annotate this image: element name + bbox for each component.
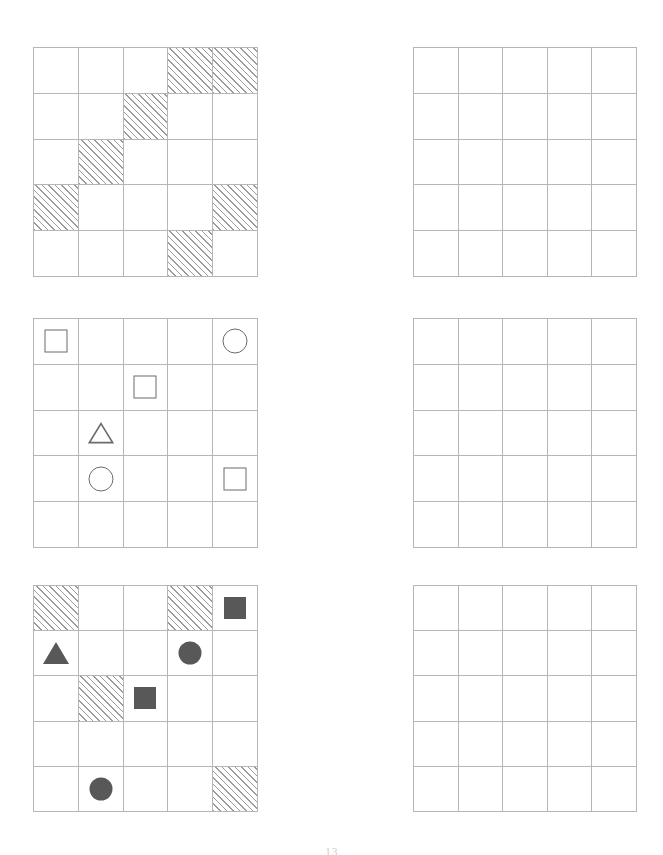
grid-cell[interactable] — [548, 502, 593, 548]
grid-cell[interactable] — [414, 48, 459, 94]
grid-cell[interactable] — [124, 767, 169, 812]
grid-cell[interactable] — [213, 185, 258, 231]
grid-cell[interactable] — [459, 319, 504, 365]
grid-cell[interactable] — [503, 140, 548, 186]
grid-cell[interactable] — [592, 767, 637, 812]
grid-cell[interactable] — [503, 411, 548, 457]
grid-cell[interactable] — [124, 231, 169, 277]
grid-cell[interactable] — [79, 722, 124, 767]
grid-cell[interactable] — [213, 676, 258, 721]
grid-cell[interactable] — [79, 456, 124, 502]
grid-cell[interactable] — [79, 231, 124, 277]
grid-cell[interactable] — [124, 456, 169, 502]
grid-cell[interactable] — [592, 140, 637, 186]
grid-cell[interactable] — [548, 231, 593, 277]
grid-cell[interactable] — [503, 631, 548, 676]
grid-cell[interactable] — [414, 586, 459, 631]
grid-cell[interactable] — [548, 456, 593, 502]
grid-cell[interactable] — [124, 365, 169, 411]
grid-cell[interactable] — [503, 365, 548, 411]
grid-cell[interactable] — [592, 502, 637, 548]
grid-cell[interactable] — [592, 411, 637, 457]
grid-cell[interactable] — [503, 722, 548, 767]
grid-cell[interactable] — [34, 767, 79, 812]
grid-cell[interactable] — [213, 94, 258, 140]
grid-cell[interactable] — [592, 231, 637, 277]
grid-cell[interactable] — [79, 502, 124, 548]
grid-cell[interactable] — [548, 94, 593, 140]
grid-cell[interactable] — [548, 767, 593, 812]
grid-cell[interactable] — [34, 94, 79, 140]
grid-cell[interactable] — [503, 767, 548, 812]
grid-cell[interactable] — [592, 48, 637, 94]
grid-cell[interactable] — [592, 586, 637, 631]
grid-cell[interactable] — [34, 676, 79, 721]
grid-cell[interactable] — [34, 631, 79, 676]
grid-cell[interactable] — [213, 586, 258, 631]
grid-cell[interactable] — [213, 365, 258, 411]
grid-cell[interactable] — [79, 319, 124, 365]
grid-cell[interactable] — [592, 676, 637, 721]
grid-cell[interactable] — [592, 722, 637, 767]
grid-cell[interactable] — [414, 140, 459, 186]
grid-cell[interactable] — [34, 502, 79, 548]
grid-cell[interactable] — [459, 586, 504, 631]
grid-cell[interactable] — [459, 185, 504, 231]
grid-cell[interactable] — [414, 411, 459, 457]
grid-cell[interactable] — [124, 319, 169, 365]
grid-cell[interactable] — [213, 767, 258, 812]
grid-cell[interactable] — [213, 319, 258, 365]
grid-cell[interactable] — [79, 185, 124, 231]
grid-cell[interactable] — [168, 48, 213, 94]
grid-cell[interactable] — [459, 140, 504, 186]
grid-cell[interactable] — [459, 48, 504, 94]
grid-cell[interactable] — [548, 722, 593, 767]
grid-cell[interactable] — [503, 456, 548, 502]
grid-cell[interactable] — [503, 586, 548, 631]
grid-cell[interactable] — [79, 676, 124, 721]
grid-cell[interactable] — [548, 411, 593, 457]
grid-cell[interactable] — [592, 185, 637, 231]
grid-cell[interactable] — [459, 94, 504, 140]
grid-cell[interactable] — [34, 456, 79, 502]
grid-cell[interactable] — [34, 319, 79, 365]
grid-cell[interactable] — [459, 365, 504, 411]
grid-cell[interactable] — [414, 767, 459, 812]
grid-cell[interactable] — [414, 502, 459, 548]
grid-cell[interactable] — [124, 411, 169, 457]
grid-cell[interactable] — [414, 722, 459, 767]
grid-cell[interactable] — [34, 185, 79, 231]
grid-cell[interactable] — [79, 586, 124, 631]
grid-cell[interactable] — [459, 411, 504, 457]
grid-cell[interactable] — [34, 140, 79, 186]
grid-cell[interactable] — [168, 676, 213, 721]
grid-cell[interactable] — [213, 231, 258, 277]
grid-cell[interactable] — [592, 94, 637, 140]
grid-cell[interactable] — [34, 722, 79, 767]
grid-cell[interactable] — [414, 319, 459, 365]
grid-cell[interactable] — [168, 185, 213, 231]
grid-cell[interactable] — [503, 319, 548, 365]
grid-cell[interactable] — [168, 319, 213, 365]
grid-cell[interactable] — [168, 502, 213, 548]
grid-cell[interactable] — [34, 586, 79, 631]
grid-cell[interactable] — [414, 631, 459, 676]
grid-cell[interactable] — [124, 586, 169, 631]
grid-cell[interactable] — [414, 365, 459, 411]
grid-cell[interactable] — [168, 94, 213, 140]
grid-cell[interactable] — [548, 631, 593, 676]
grid-cell[interactable] — [592, 631, 637, 676]
grid-cell[interactable] — [34, 48, 79, 94]
grid-cell[interactable] — [503, 185, 548, 231]
grid-cell[interactable] — [124, 140, 169, 186]
grid-cell[interactable] — [34, 365, 79, 411]
grid-cell[interactable] — [459, 631, 504, 676]
grid-cell[interactable] — [124, 94, 169, 140]
grid-cell[interactable] — [414, 185, 459, 231]
grid-cell[interactable] — [124, 502, 169, 548]
grid-cell[interactable] — [168, 767, 213, 812]
grid-cell[interactable] — [168, 231, 213, 277]
grid-cell[interactable] — [592, 319, 637, 365]
grid-cell[interactable] — [124, 48, 169, 94]
grid-cell[interactable] — [459, 722, 504, 767]
